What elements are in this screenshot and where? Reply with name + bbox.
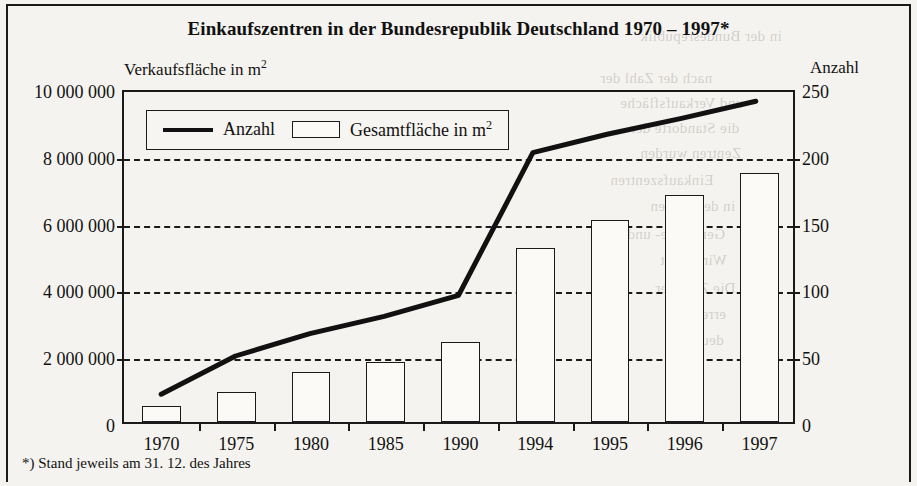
- bar: [516, 248, 555, 422]
- bar: [441, 342, 480, 422]
- left-axis-tick-label: 2 000 000: [43, 349, 115, 370]
- left-axis-tick-mark: [117, 159, 124, 161]
- right-axis-tick-mark: [793, 159, 800, 161]
- bar: [740, 173, 779, 422]
- category-separator-tick: [274, 422, 276, 431]
- right-axis-tick-mark: [793, 292, 800, 294]
- legend-label-superscript: 2: [486, 118, 492, 132]
- chart-title: Einkaufszentren in der Bundesrepublik De…: [0, 18, 917, 40]
- left-axis-title-text: Verkaufsfläche in m: [124, 60, 261, 79]
- chart-legend: Anzahl Gesamtfläche in m2: [146, 110, 509, 150]
- legend-label-anzahl: Anzahl: [223, 119, 275, 140]
- left-axis-tick-label: 10 000 000: [34, 82, 115, 103]
- bar: [366, 362, 405, 422]
- left-axis-tick-label: 4 000 000: [43, 282, 115, 303]
- legend-label-gesamtflaeche: Gesamtfläche in m2: [350, 118, 492, 141]
- x-axis-tick-label: 1985: [368, 434, 404, 455]
- category-separator-tick: [573, 422, 575, 431]
- plot-area: 02 000 0004 000 0006 000 0008 000 00010 …: [122, 90, 795, 424]
- left-axis-tick-label: 0: [106, 416, 115, 437]
- left-axis-tick-mark: [117, 359, 124, 361]
- right-axis-title: Anzahl: [810, 58, 859, 78]
- right-axis-tick-mark: [793, 226, 800, 228]
- legend-line-swatch: [163, 128, 213, 132]
- category-separator-tick: [722, 422, 724, 431]
- right-axis-tick-label: 0: [802, 416, 811, 437]
- category-separator-tick: [423, 422, 425, 431]
- right-axis-tick-mark: [793, 359, 800, 361]
- category-separator-tick: [498, 422, 500, 431]
- x-axis-tick-label: 1970: [143, 434, 179, 455]
- figure-page: in der Bundesrepubliknach der Zahl derun…: [0, 0, 917, 486]
- right-axis-tick-label: 250: [802, 82, 829, 103]
- right-axis-tick-label: 200: [802, 148, 829, 169]
- bar: [591, 220, 630, 422]
- bar: [217, 392, 256, 422]
- x-axis-tick-label: 1995: [592, 434, 628, 455]
- left-axis-tick-mark: [117, 226, 124, 228]
- x-axis-tick-label: 1990: [443, 434, 479, 455]
- page-frame-right-border: [909, 4, 911, 482]
- x-axis-tick-label: 1975: [218, 434, 254, 455]
- legend-item-gesamtflaeche: Gesamtfläche in m2: [292, 118, 492, 141]
- gridline: [124, 159, 793, 161]
- left-axis-title: Verkaufsfläche in m2: [124, 58, 267, 80]
- x-axis-tick-label: 1996: [667, 434, 703, 455]
- x-axis-tick-label: 1994: [517, 434, 553, 455]
- left-axis-tick-label: 6 000 000: [43, 215, 115, 236]
- right-axis-tick-label: 50: [802, 349, 820, 370]
- x-axis-tick-label: 1980: [293, 434, 329, 455]
- left-axis-tick-mark: [117, 292, 124, 294]
- legend-item-anzahl: Anzahl: [163, 119, 275, 140]
- right-axis-tick-label: 150: [802, 215, 829, 236]
- category-separator-tick: [348, 422, 350, 431]
- bar: [665, 195, 704, 422]
- chart-footnote: *) Stand jeweils am 31. 12. des Jahres: [22, 455, 251, 472]
- left-axis-title-superscript: 2: [261, 58, 267, 71]
- x-axis-tick-label: 1997: [742, 434, 778, 455]
- left-axis-tick-label: 8 000 000: [43, 148, 115, 169]
- bar: [142, 406, 181, 422]
- right-axis-tick-label: 100: [802, 282, 829, 303]
- legend-bar-swatch: [292, 121, 340, 138]
- category-separator-tick: [647, 422, 649, 431]
- category-separator-tick: [199, 422, 201, 431]
- bar: [292, 372, 331, 422]
